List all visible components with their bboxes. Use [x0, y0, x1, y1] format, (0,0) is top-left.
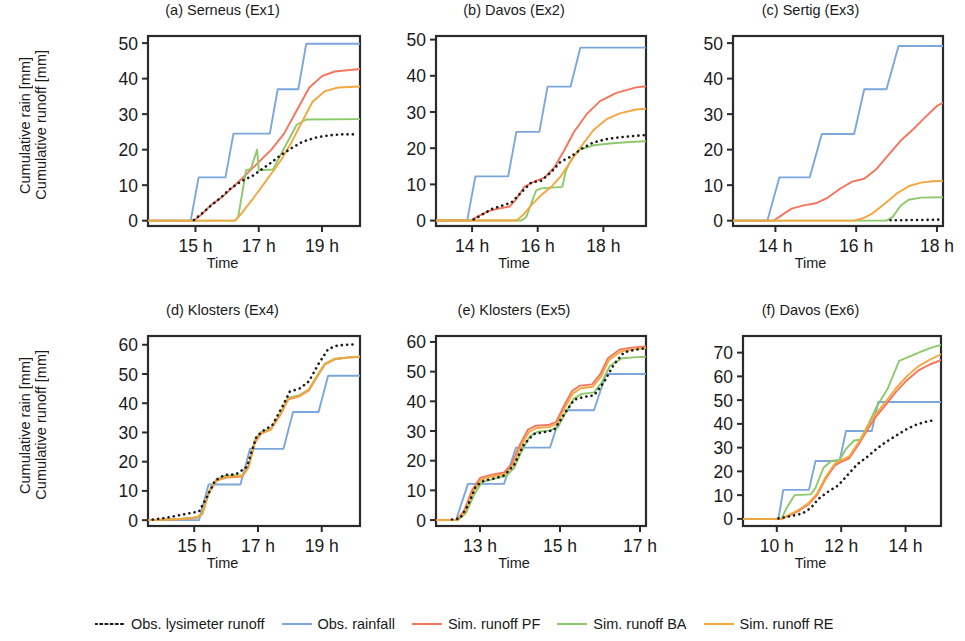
y-tick-label: 0 [723, 509, 733, 529]
x-tick-label: 18 h [586, 236, 620, 256]
x-tick-label: 19 h [305, 236, 339, 256]
legend-label: Sim. runoff RE [740, 616, 834, 632]
panel-e-x-axis-label: Time [370, 555, 658, 571]
y-tick-label: 60 [714, 367, 734, 387]
x-tick-label: 18 h [920, 236, 954, 256]
legend-item: Obs. rainfall [282, 616, 395, 632]
panel-e-title: (e) Klosters (Ex5) [370, 302, 658, 318]
legend-item: Sim. runoff RE [704, 616, 834, 632]
panel-d-title: (d) Klosters (Ex4) [75, 302, 370, 318]
y-tick-label: 60 [119, 335, 139, 355]
x-tick-label: 12 h [824, 536, 858, 556]
legend-label: Sim. runoff PF [448, 616, 540, 632]
panel-f-title: (f) Davos (Ex6) [658, 302, 963, 318]
y-tick-label: 40 [407, 66, 427, 86]
legend-swatch-icon [282, 617, 312, 631]
legend-item: Obs. lysimeter runoff [95, 616, 265, 632]
legend-swatch-icon [412, 617, 442, 631]
legend-swatch-icon [704, 617, 734, 631]
y-tick-label: 10 [119, 481, 139, 501]
y-tick-label: 20 [704, 140, 724, 160]
y-axis-label-cumulative-rain-top: Cumulative rain [mm] [17, 57, 33, 194]
x-tick-label: 14 h [889, 536, 923, 556]
legend-swatch-icon [557, 617, 587, 631]
y-tick-label: 30 [714, 438, 734, 458]
panel-c-x-axis-label: Time [658, 255, 963, 271]
legend-label: Obs. rainfall [318, 616, 395, 632]
y-tick-label: 20 [119, 452, 139, 472]
x-tick-label: 14 h [758, 236, 792, 256]
y-tick-label: 40 [407, 392, 427, 412]
y-tick-label: 40 [704, 69, 724, 89]
y-axis-label-cumulative-rain-bottom: Cumulative rain [mm] [17, 357, 33, 494]
y-tick-label: 10 [407, 481, 427, 501]
x-tick-label: 16 h [839, 236, 873, 256]
y-axis-label-cumulative-runoff-bottom: Cumulative runoff [mm] [33, 350, 49, 500]
panel-d-x-axis-label: Time [75, 555, 370, 571]
panel-d-plot: 010203040506015 h17 h19 h [75, 320, 370, 570]
y-tick-label: 0 [713, 211, 723, 231]
y-tick-label: 40 [119, 69, 139, 89]
legend-label: Obs. lysimeter runoff [131, 616, 265, 632]
panel-a: (a) Serneus (Ex1) 0102030405015 h17 h19 … [75, 2, 370, 280]
panel-b-x-axis-label: Time [370, 255, 658, 271]
x-tick-label: 15 h [177, 536, 211, 556]
y-tick-label: 60 [407, 332, 427, 352]
y-tick-label: 30 [119, 423, 139, 443]
panel-b: (b) Davos (Ex2) 0102030405014 h16 h18 h … [370, 2, 658, 280]
y-tick-label: 40 [119, 394, 139, 414]
figure-root: Cumulative rain [mm] Cumulative runoff [… [0, 0, 965, 641]
y-tick-label: 50 [119, 34, 139, 54]
y-tick-label: 10 [407, 175, 427, 195]
y-tick-label: 50 [714, 391, 734, 411]
y-tick-label: 30 [407, 103, 427, 123]
x-tick-label: 15 h [178, 236, 212, 256]
panel-f-x-axis-label: Time [658, 555, 963, 571]
x-tick-label: 17 h [623, 536, 657, 556]
y-tick-label: 10 [704, 176, 724, 196]
y-tick-label: 20 [714, 462, 734, 482]
x-tick-label: 17 h [242, 236, 276, 256]
y-tick-label: 40 [714, 414, 734, 434]
legend-swatch-icon [95, 617, 125, 631]
y-axis-label-group-top: Cumulative rain [mm] Cumulative runoff [… [4, 20, 62, 230]
panel-f-plot: 01020304050607010 h12 h14 h [658, 320, 963, 570]
panel-c-plot: 0102030405014 h16 h18 h [658, 20, 963, 270]
x-tick-label: 15 h [543, 536, 577, 556]
panel-b-plot: 0102030405014 h16 h18 h [370, 20, 658, 270]
panel-a-plot: 0102030405015 h17 h19 h [75, 20, 370, 270]
panel-e-plot: 010203040506013 h15 h17 h [370, 320, 658, 570]
y-tick-label: 20 [407, 139, 427, 159]
y-tick-label: 50 [119, 365, 139, 385]
y-tick-label: 30 [704, 105, 724, 125]
panel-a-x-axis-label: Time [75, 255, 370, 271]
y-tick-label: 50 [407, 362, 427, 382]
panel-b-title: (b) Davos (Ex2) [370, 2, 658, 18]
y-tick-label: 0 [416, 511, 426, 531]
panel-a-title: (a) Serneus (Ex1) [75, 2, 370, 18]
x-tick-label: 14 h [455, 236, 489, 256]
y-tick-label: 0 [128, 511, 138, 531]
x-tick-label: 16 h [521, 236, 555, 256]
y-tick-label: 50 [407, 30, 427, 50]
y-axis-label-group-bottom: Cumulative rain [mm] Cumulative runoff [… [4, 320, 62, 530]
y-tick-label: 10 [119, 176, 139, 196]
panel-c: (c) Sertig (Ex3) 0102030405014 h16 h18 h… [658, 2, 963, 280]
x-tick-label: 17 h [241, 536, 275, 556]
legend-item: Sim. runoff BA [557, 616, 686, 632]
legend-item: Sim. runoff PF [412, 616, 540, 632]
panel-e: (e) Klosters (Ex5) 010203040506013 h15 h… [370, 302, 658, 587]
y-tick-label: 70 [714, 343, 734, 363]
y-tick-label: 50 [704, 34, 724, 54]
panel-d: (d) Klosters (Ex4) 010203040506015 h17 h… [75, 302, 370, 587]
y-axis-label-cumulative-runoff-top: Cumulative runoff [mm] [33, 50, 49, 200]
legend: Obs. lysimeter runoffObs. rainfallSim. r… [95, 612, 851, 636]
y-tick-label: 0 [128, 211, 138, 231]
legend-label: Sim. runoff BA [593, 616, 686, 632]
y-tick-label: 0 [416, 211, 426, 231]
y-tick-label: 30 [119, 105, 139, 125]
panel-f: (f) Davos (Ex6) 01020304050607010 h12 h1… [658, 302, 963, 587]
y-tick-label: 30 [407, 422, 427, 442]
panel-c-title: (c) Sertig (Ex3) [658, 2, 963, 18]
x-tick-label: 10 h [760, 536, 794, 556]
